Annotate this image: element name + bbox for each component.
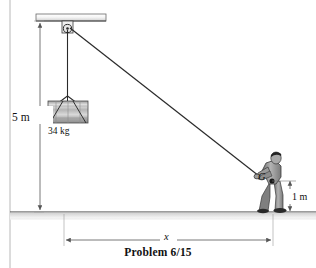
person-pulling-icon [254,152,287,213]
dimension-5m [29,23,53,210]
label-height-5m: 5 m [12,112,30,124]
figure-caption: Problem 6/15 [0,246,316,258]
label-center-of-gravity: G [258,172,266,183]
label-mass-34kg: 34 kg [48,127,69,137]
drum-mass-icon [48,101,88,123]
ceiling-beam [36,14,106,21]
label-height-1m: 1 m [292,192,307,202]
label-distance-x: x [164,232,169,243]
ground-hatch-icon [10,212,316,220]
inclined-rope [70,28,259,176]
physics-figure: 5 m 34 kg 1 m x G Problem 6/15 [0,0,316,268]
